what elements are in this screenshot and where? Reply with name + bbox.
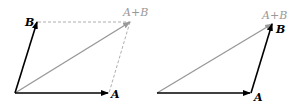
label-sum: A+B — [261, 9, 287, 22]
label-b: B — [275, 23, 285, 36]
label-sum: A+B — [122, 6, 148, 19]
triangle-diagram: A B A+B — [157, 9, 287, 104]
parallelogram-diagram: A B A+B — [15, 6, 148, 101]
label-a: A — [110, 88, 120, 101]
label-a: A — [253, 91, 263, 104]
vector-b-arrow — [15, 22, 37, 93]
vector-addition-figure: A B A+B A B A+B — [0, 0, 301, 110]
label-b: B — [24, 16, 34, 29]
vector-sum-arrow — [15, 22, 130, 93]
